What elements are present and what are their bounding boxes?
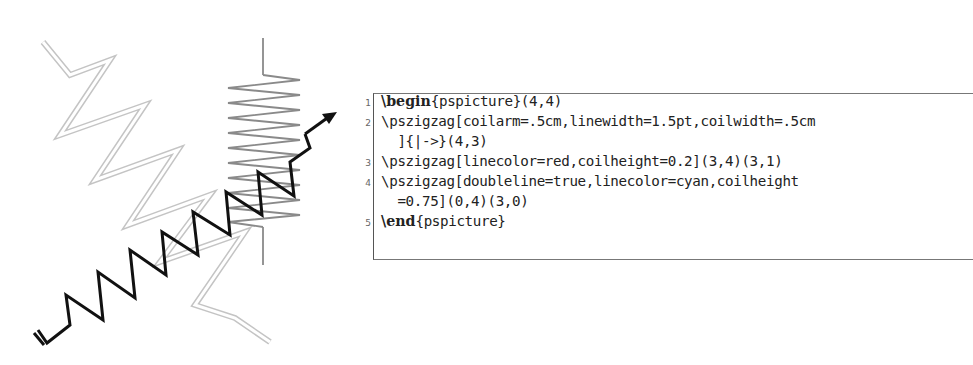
code-line-2-cont: ]{|->}(4,3) bbox=[381, 133, 488, 149]
line-number: 3 bbox=[359, 158, 371, 168]
line-number: 4 bbox=[359, 178, 371, 188]
code-text: =0.75](0,4)(3,0) bbox=[381, 193, 528, 209]
code-keyword: \end bbox=[381, 213, 415, 229]
vertical-coil bbox=[228, 75, 300, 227]
line-number: 1 bbox=[359, 98, 371, 108]
code-keyword: \begin bbox=[381, 93, 431, 109]
black-zigzag bbox=[38, 134, 310, 343]
code-line-5: \end{pspicture} bbox=[381, 213, 506, 229]
code-line-1: \begin{pspicture}(4,4) bbox=[381, 93, 562, 109]
line-number: 5 bbox=[359, 218, 371, 228]
code-text: {pspicture}(4,4) bbox=[431, 93, 562, 109]
code-line-2: \pszigzag[coilarm=.5cm,linewidth=1.5pt,c… bbox=[381, 113, 815, 129]
arrow-head-icon bbox=[322, 112, 337, 124]
code-line-4: \pszigzag[doubleline=true,linecolor=cyan… bbox=[381, 173, 799, 189]
line-number: 2 bbox=[359, 118, 371, 128]
code-text: \pszigzag[coilarm=.5cm,linewidth=1.5pt,c… bbox=[381, 113, 815, 129]
code-text: {pspicture} bbox=[415, 213, 505, 229]
code-line-4-cont: =0.75](0,4)(3,0) bbox=[381, 193, 528, 209]
code-line-3: \pszigzag[linecolor=red,coilheight=0.2](… bbox=[381, 153, 782, 169]
pszigzag-figure bbox=[0, 0, 360, 365]
code-text: \pszigzag[linecolor=red,coilheight=0.2](… bbox=[381, 153, 782, 169]
code-text: ]{|->}(4,3) bbox=[381, 133, 488, 149]
code-text: \pszigzag[doubleline=true,linecolor=cyan… bbox=[381, 173, 799, 189]
